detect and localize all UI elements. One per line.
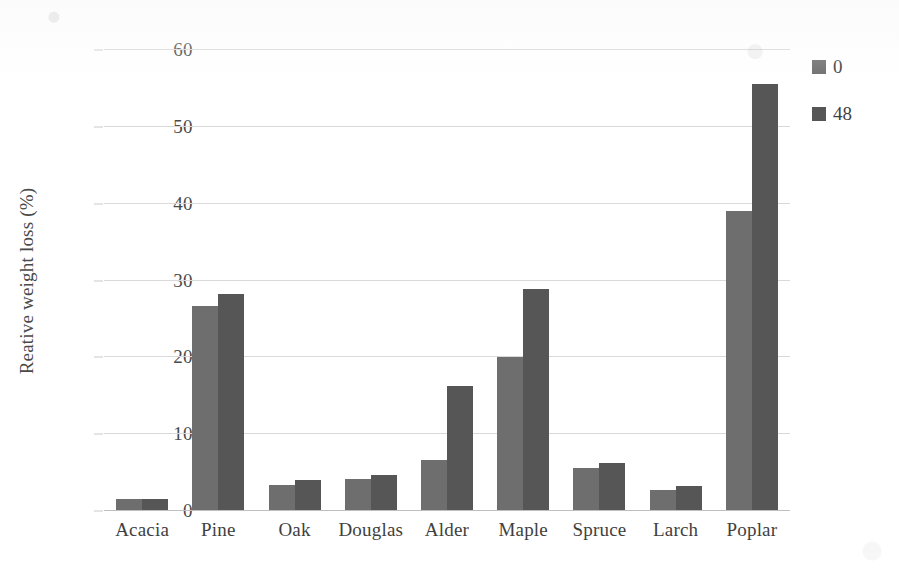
x-tick-label: Spruce [572, 519, 626, 541]
plot-area [104, 50, 790, 511]
bar [497, 357, 523, 511]
x-tick-label: Poplar [726, 519, 777, 541]
bar [676, 486, 702, 511]
x-axis-line [104, 510, 790, 511]
bar [295, 480, 321, 511]
bar-group [409, 50, 485, 511]
legend-swatch-icon [812, 107, 826, 121]
bar [218, 294, 244, 511]
legend-label: 0 [833, 57, 843, 76]
y-tick-mark-0 [94, 511, 103, 512]
bar-group [333, 50, 409, 511]
y-tick-mark-50 [94, 126, 103, 127]
y-tick-mark-20 [94, 357, 103, 358]
x-tick-label: Maple [498, 519, 548, 541]
bar-chart: Reative weight loss (%) 0102030405060 Ac… [0, 0, 899, 574]
bar-group [638, 50, 714, 511]
legend-item[interactable]: 0 [812, 57, 852, 76]
legend-label: 48 [833, 104, 852, 123]
x-tick-label: Douglas [338, 519, 403, 541]
bar [599, 463, 625, 511]
bar [345, 479, 371, 511]
y-tick-mark-60 [94, 50, 103, 51]
bar [447, 386, 473, 511]
bar-group [561, 50, 637, 511]
y-tick-mark-40 [94, 203, 103, 204]
bar [371, 475, 397, 511]
y-tick-mark-10 [94, 434, 103, 435]
x-tick-label: Larch [653, 519, 698, 541]
bar-group [485, 50, 561, 511]
x-tick-label: Acacia [115, 519, 169, 541]
bar [192, 306, 218, 511]
bar [650, 490, 676, 511]
bar [421, 460, 447, 511]
x-tick-label: Oak [278, 519, 310, 541]
x-tick-label: Pine [201, 519, 236, 541]
bar-group [714, 50, 790, 511]
legend-item[interactable]: 48 [812, 104, 852, 123]
legend-swatch-icon [812, 60, 826, 74]
bar [726, 211, 752, 511]
legend: 048 [812, 57, 852, 123]
x-tick-label: Alder [425, 519, 469, 541]
bar [523, 289, 549, 511]
bar [269, 485, 295, 511]
bar [573, 468, 599, 511]
bar-group [180, 50, 256, 511]
bar-group [104, 50, 180, 511]
y-axis-title: Reative weight loss (%) [16, 187, 38, 374]
bar [752, 84, 778, 511]
y-tick-mark-30 [94, 280, 103, 281]
y-axis-title-container: Reative weight loss (%) [10, 50, 44, 511]
bar-group [256, 50, 332, 511]
